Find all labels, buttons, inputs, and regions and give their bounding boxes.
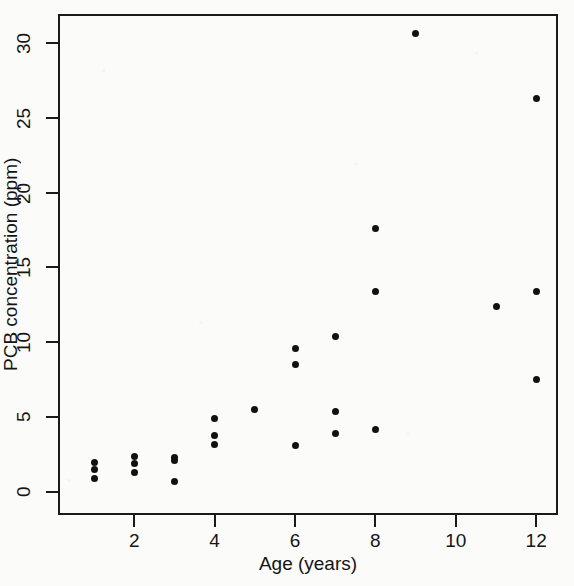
data-point [91,459,98,466]
scatter-plot-figure: 051015202530 24681012 PCB concentration … [0,0,574,586]
data-point [91,466,98,473]
y-axis-title: PCB concentration (ppm) [0,14,24,515]
data-point [372,426,379,433]
data-point [211,441,218,448]
data-point [131,469,138,476]
x-axis-tick [133,515,135,527]
data-point [211,432,218,439]
data-point [412,30,419,37]
data-point [372,288,379,295]
data-point [493,303,500,310]
data-point [171,478,178,485]
x-axis-tick [214,515,216,527]
data-point [332,430,339,437]
data-point [292,442,299,449]
x-axis-tick-label: 4 [195,530,235,552]
x-axis-tick [294,515,296,527]
x-axis-title: Age (years) [58,553,558,575]
x-axis-tick [374,515,376,527]
x-axis-tick-label: 8 [355,530,395,552]
data-point [171,457,178,464]
x-axis-tick-label: 12 [516,530,556,552]
x-axis-tick [535,515,537,527]
data-point [332,408,339,415]
data-point [533,288,540,295]
data-point [372,225,379,232]
plot-area [58,14,558,515]
y-axis-title-wrapper: PCB concentration (ppm) [0,14,26,515]
data-point [131,460,138,467]
data-point [211,415,218,422]
x-axis-tick-label: 2 [114,530,154,552]
x-axis-tick-label: 10 [436,530,476,552]
data-point [533,95,540,102]
x-axis-tick [455,515,457,527]
data-point [131,453,138,460]
data-point [292,345,299,352]
data-point [533,376,540,383]
x-axis-tick-label: 6 [275,530,315,552]
data-point [251,406,258,413]
data-point [332,333,339,340]
data-point [292,361,299,368]
data-point [91,475,98,482]
